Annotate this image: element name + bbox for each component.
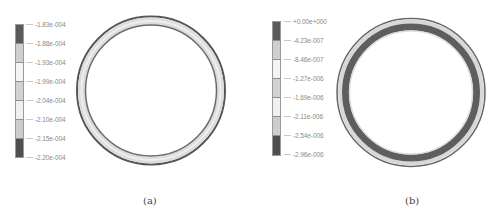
colorbar-b-seg-5 [273, 117, 280, 136]
legend-b-label: -2.54e-006 [293, 132, 323, 139]
legend-b-label: -1.69e-006 [293, 94, 323, 101]
panel-b: +0.00e+000 -4.23e-007 -8.46e-007 -1.27e-… [0, 0, 498, 221]
legend-b-label: -1.27e-006 [293, 75, 323, 82]
colorbar-b-seg-3 [273, 79, 280, 98]
colorbar-b-seg-4 [273, 98, 280, 117]
legend-b-label: -4.23e-007 [293, 37, 323, 44]
legend-b-label: -8.46e-007 [293, 56, 323, 63]
legend-b-label: -2.11e-006 [293, 113, 323, 120]
legend-b-label: +0.00e+000 [293, 18, 327, 25]
legend-b-label: -2.96e-006 [293, 151, 323, 158]
colorbar-b [272, 21, 281, 156]
colorbar-b-seg-1 [273, 41, 280, 60]
ring-plot-b [331, 12, 491, 172]
colorbar-b-seg-6 [273, 136, 280, 155]
colorbar-b-seg-0 [273, 22, 280, 41]
colorbar-b-seg-2 [273, 60, 280, 79]
caption-b: (b) [405, 195, 419, 206]
